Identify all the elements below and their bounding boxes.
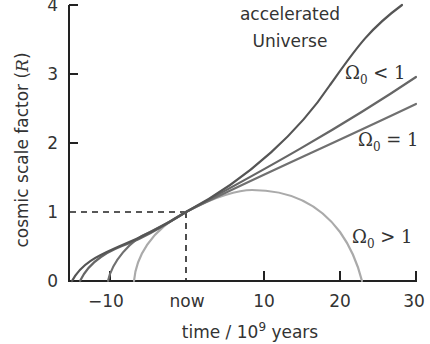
- scale-factor-chart: 0 1 2 3 4 −10 now 10 20 30 time / 109 ye…: [0, 0, 430, 344]
- x-axis-label: time / 109 years: [182, 320, 319, 342]
- y-tick-4: 4: [47, 0, 58, 15]
- annotation-universe: Universe: [253, 31, 328, 51]
- curve-omega-lt-1: [80, 77, 416, 281]
- x-tick-m10: −10: [88, 291, 124, 311]
- x-tick-now: now: [169, 291, 204, 311]
- y-tick-2: 2: [47, 133, 58, 153]
- annotation-accelerated: accelerated: [240, 4, 340, 24]
- x-tick-10: 10: [253, 291, 275, 311]
- y-tick-0: 0: [47, 271, 58, 291]
- annotation-omega-gt-1: Ω0 > 1: [352, 226, 413, 251]
- x-tick-30: 30: [403, 291, 425, 311]
- y-tick-1: 1: [47, 202, 58, 222]
- y-axis-label: cosmic scale factor (R): [12, 52, 32, 247]
- y-tick-3: 3: [47, 64, 58, 84]
- curve-omega-gt-1: [134, 190, 362, 281]
- y-tick-labels: 0 1 2 3 4: [47, 0, 58, 291]
- x-tick-20: 20: [329, 291, 351, 311]
- annotation-omega-lt-1: Ω0 < 1: [345, 62, 406, 87]
- x-tick-labels: −10 now 10 20 30: [88, 291, 425, 311]
- annotation-omega-eq-1: Ω0 = 1: [358, 129, 419, 154]
